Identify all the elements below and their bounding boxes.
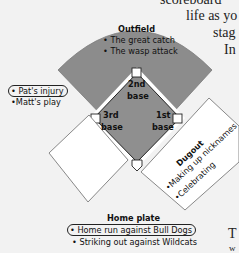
outfield-label: Outfield — [118, 24, 155, 34]
home-plate-item: • Striking out against Wildcats — [72, 237, 197, 247]
page-text-line-6: w — [229, 243, 236, 253]
left-note-circled: • Pat's injury — [8, 85, 68, 97]
second-base-icon — [132, 68, 141, 77]
home-plate-label: Home plate — [107, 213, 160, 223]
page-text-line-1: scoreboard — [160, 0, 221, 8]
page-text-line-5: T — [228, 226, 237, 242]
home-plate-icon — [132, 160, 142, 171]
outfield-item: • The wasp attack — [103, 46, 178, 56]
third-base-label-1: 3rd — [103, 110, 119, 120]
second-base-label-1: 2nd — [128, 79, 145, 89]
home-plate-item-circled: • Home run against Bull Dogs — [67, 224, 196, 236]
left-note: •Matt's play — [11, 97, 61, 107]
page-text-line-3: stag — [213, 25, 236, 41]
third-base-label-2: base — [101, 122, 123, 132]
outfield-item: • The great catch — [103, 35, 175, 45]
second-base-label-2: base — [127, 91, 149, 101]
page-text-line-2: life as yo — [186, 8, 237, 24]
